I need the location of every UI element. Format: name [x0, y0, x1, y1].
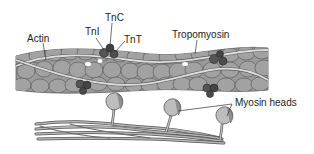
label-tni: TnI: [85, 27, 99, 37]
label-tropomyosin: Tropomyosin: [172, 30, 229, 40]
thin-filament: [13, 44, 273, 98]
myosin-head-1: [106, 93, 123, 125]
label-tnt: TnT: [124, 35, 142, 45]
myosin-head-3: [216, 107, 233, 140]
myosin-tails: [36, 122, 224, 143]
diagram-canvas: [0, 0, 314, 154]
label-tnc: TnC: [105, 13, 124, 23]
thick-filament: [36, 93, 233, 143]
sarcomere-filament-diagram: Actin TnI TnC TnT Tropomyosin Myosin hea…: [0, 0, 314, 154]
label-myosin-heads: Myosin heads: [235, 98, 297, 108]
label-actin: Actin: [27, 34, 49, 44]
tropomyosin-leader: [195, 40, 197, 54]
troponin-complex-4: [203, 84, 218, 98]
myosin-head-2: [164, 99, 181, 132]
tnc-leader: [110, 23, 112, 46]
tni-leader: [96, 38, 104, 50]
